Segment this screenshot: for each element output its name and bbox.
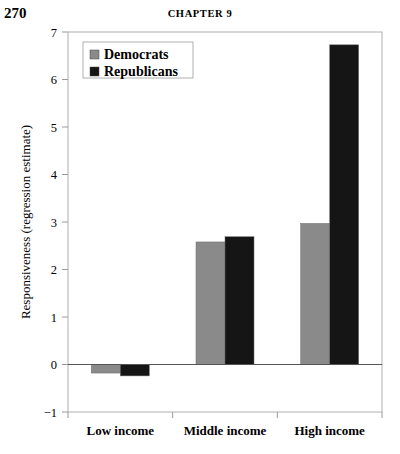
figure-page: 270 CHAPTER 9 −101234567Responsiveness (… bbox=[0, 0, 400, 454]
y-tick-label: −1 bbox=[44, 406, 57, 420]
bar-chart: −101234567Responsiveness (regression est… bbox=[0, 0, 400, 454]
legend-swatch-democrats bbox=[90, 50, 99, 59]
y-tick-label: 5 bbox=[51, 121, 57, 135]
y-axis-title: Responsiveness (regression estimate) bbox=[18, 125, 33, 319]
y-tick-label: 4 bbox=[51, 168, 58, 182]
legend: DemocratsRepublicans bbox=[83, 42, 193, 79]
y-tick-label: 3 bbox=[51, 216, 57, 230]
legend-swatch-republicans bbox=[90, 67, 99, 76]
x-category-label: Low income bbox=[87, 423, 155, 438]
x-category-label: High income bbox=[294, 423, 365, 438]
legend-label-democrats: Democrats bbox=[104, 47, 169, 62]
bar-low-income-republicans bbox=[120, 365, 149, 376]
bar-high-income-republicans bbox=[330, 45, 359, 365]
y-tick-label: 6 bbox=[51, 73, 57, 87]
y-tick-label: 2 bbox=[51, 263, 57, 277]
y-axis: −101234567 bbox=[44, 26, 68, 420]
bar-middle-income-republicans bbox=[225, 237, 254, 365]
y-tick-label: 7 bbox=[51, 26, 57, 40]
bar-middle-income-democrats bbox=[196, 242, 225, 365]
legend-label-republicans: Republicans bbox=[104, 64, 178, 79]
x-axis: Low incomeMiddle incomeHigh income bbox=[68, 412, 382, 438]
x-category-label: Middle income bbox=[184, 423, 267, 438]
bar-high-income-democrats bbox=[301, 223, 330, 364]
bar-low-income-democrats bbox=[91, 365, 120, 374]
y-tick-label: 0 bbox=[51, 358, 57, 372]
y-tick-label: 1 bbox=[51, 311, 57, 325]
